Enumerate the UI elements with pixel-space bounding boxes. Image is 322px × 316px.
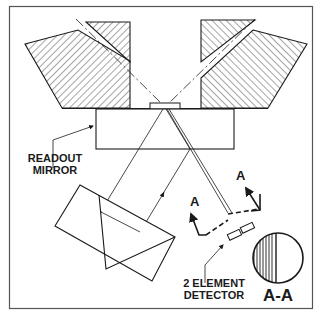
- left-housing: [25, 22, 130, 108]
- readout-mirror-label-2: MIRROR: [33, 164, 78, 176]
- prism: [55, 185, 175, 281]
- section-view-circle: [253, 230, 303, 286]
- readout-mirror-label-1: READOUT: [28, 152, 83, 164]
- detector-elements: [227, 222, 254, 240]
- detector-label-1: 2 ELEMENT: [183, 277, 245, 289]
- section-marker-left: A: [190, 194, 200, 209]
- readout-mirror: [96, 109, 234, 149]
- section-marker-right: A: [236, 168, 246, 183]
- optical-readout-diagram: READOUT MIRROR A A 2 ELEMENT DETECTOR A-…: [0, 0, 322, 316]
- right-housing: [201, 20, 307, 108]
- section-view-label: A-A: [263, 286, 293, 305]
- detector-label-2: DETECTOR: [184, 289, 244, 301]
- scale-element: [150, 103, 180, 109]
